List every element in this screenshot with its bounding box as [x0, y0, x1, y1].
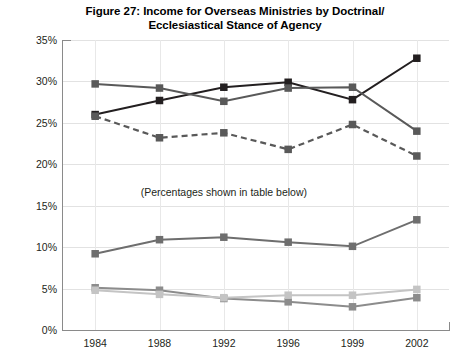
- series-series-4-mid-gray-solid: [91, 216, 420, 257]
- series-marker: [156, 134, 164, 142]
- series-marker: [349, 243, 357, 251]
- series-marker: [156, 291, 164, 299]
- series-marker: [284, 291, 292, 299]
- series-line: [95, 289, 417, 297]
- series-marker: [413, 152, 421, 160]
- series-marker: [220, 129, 228, 137]
- series-marker: [91, 286, 99, 294]
- series-marker: [220, 98, 228, 106]
- series-marker: [156, 97, 164, 105]
- series-marker: [413, 286, 421, 294]
- series-layer: [0, 0, 470, 364]
- x-axis-tick-label: 1996: [258, 337, 318, 349]
- series-series-6-light-gray-solid: [91, 286, 420, 302]
- x-axis-tick-label: 2002: [387, 337, 447, 349]
- series-marker: [349, 121, 357, 129]
- series-marker: [284, 298, 292, 306]
- figure-chart: Figure 27: Income for Overseas Ministrie…: [0, 0, 470, 364]
- series-marker: [156, 84, 164, 92]
- series-marker: [349, 291, 357, 299]
- series-marker: [156, 236, 164, 244]
- x-axis-tick-label: 1999: [323, 337, 383, 349]
- series-marker: [91, 112, 99, 120]
- plot-wrapper: 0%5%10%15%20%25%30%35% (Percentages show…: [0, 0, 470, 364]
- x-axis-tick-label: 1992: [194, 337, 254, 349]
- series-marker: [220, 83, 228, 91]
- series-marker: [91, 250, 99, 258]
- series-series-3-gray-dashed: [91, 112, 420, 159]
- series-line: [95, 84, 417, 131]
- series-marker: [220, 294, 228, 302]
- chart-annotation: (Percentages shown in table below): [141, 186, 307, 198]
- series-marker: [413, 294, 421, 302]
- series-marker: [284, 238, 292, 246]
- series-line: [95, 116, 417, 156]
- series-marker: [220, 233, 228, 241]
- series-marker: [349, 83, 357, 91]
- x-axis-tick-label: 1984: [65, 337, 125, 349]
- series-marker: [349, 303, 357, 311]
- series-line: [95, 220, 417, 254]
- x-axis-tick-label: 1988: [130, 337, 190, 349]
- series-marker: [413, 54, 421, 62]
- series-marker: [349, 96, 357, 104]
- series-marker: [91, 80, 99, 88]
- series-marker: [284, 84, 292, 92]
- series-marker: [284, 146, 292, 154]
- series-marker: [413, 216, 421, 224]
- series-marker: [413, 127, 421, 135]
